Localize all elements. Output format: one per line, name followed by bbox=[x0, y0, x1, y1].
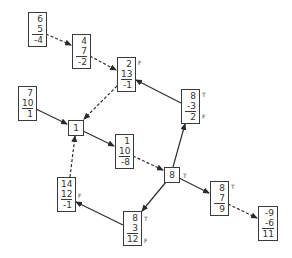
node-tag-true: T bbox=[144, 215, 148, 222]
node-14-12-neg1: 14 12 -1 bbox=[57, 177, 76, 212]
node-tag-true: T bbox=[202, 91, 206, 98]
node-value-bottom: -1 bbox=[61, 200, 72, 210]
node-2-13-neg1: 2 13 -1 bbox=[117, 57, 136, 92]
node-value-bottom: 9 bbox=[214, 204, 225, 214]
node-value-top: 8 bbox=[214, 183, 225, 193]
node-value-top: 8 bbox=[127, 213, 138, 223]
edge-h-to-k bbox=[142, 182, 166, 211]
node-value-middle: -3 bbox=[185, 101, 196, 112]
node-value-top: 4 bbox=[76, 36, 87, 46]
node-4-7-neg2: 4 7 -2 bbox=[72, 34, 91, 69]
node-value-middle: 3 bbox=[127, 223, 138, 234]
node-value-middle: 7 bbox=[214, 193, 225, 204]
node-value-bottom: -2 bbox=[76, 57, 87, 67]
node-value-top: 14 bbox=[61, 179, 72, 189]
edge-c-to-e bbox=[84, 86, 117, 119]
node-value-top: 8 bbox=[185, 91, 196, 101]
edge-b-to-c bbox=[90, 56, 116, 70]
node-7-10-1: 7 10 1 bbox=[18, 86, 37, 121]
node-tag-false: F bbox=[202, 113, 205, 120]
node-tag-false: F bbox=[144, 237, 147, 244]
node-value-middle: -6 bbox=[262, 218, 274, 229]
node-tag-true: T bbox=[231, 183, 235, 190]
edge-f-to-c bbox=[136, 80, 181, 103]
node-value-top: -9 bbox=[262, 208, 274, 218]
edge-k-to-j bbox=[76, 202, 123, 225]
node-value: 1 bbox=[69, 123, 83, 133]
node-value-top: 6 bbox=[32, 14, 43, 24]
node-value-bottom: 1 bbox=[22, 109, 33, 119]
edge-h-to-i bbox=[179, 178, 209, 193]
node-value-middle: 12 bbox=[61, 189, 72, 200]
edge-h-to-f bbox=[173, 124, 185, 167]
node-value-bottom: 12 bbox=[127, 234, 138, 244]
node-value-middle: 10 bbox=[119, 146, 130, 157]
node-neg9-neg6-11: -9 -6 11 bbox=[258, 206, 278, 241]
node-value-top: 1 bbox=[119, 136, 130, 146]
edge-e-to-g bbox=[83, 131, 114, 146]
node-value-bottom: 11 bbox=[262, 229, 274, 239]
node-value-top: 2 bbox=[121, 59, 132, 69]
node-value-middle: 7 bbox=[76, 46, 87, 57]
node-tag-true: T bbox=[183, 172, 187, 179]
node-value-middle: 10 bbox=[22, 98, 33, 109]
node-value: 8 bbox=[165, 170, 179, 180]
node-8-3-12: 8 3 12 bbox=[123, 211, 142, 246]
node-tag-false: F bbox=[78, 192, 81, 199]
node-1-10-neg8: 1 10 -8 bbox=[115, 134, 134, 169]
node-value-top: 7 bbox=[22, 88, 33, 98]
node-value-bottom: -4 bbox=[32, 35, 43, 45]
node-value-bottom: -1 bbox=[121, 80, 132, 90]
node-8-7-9: 8 7 9 bbox=[210, 181, 229, 216]
node-value-middle: 5 bbox=[32, 24, 43, 35]
edge-a-to-b bbox=[46, 34, 71, 45]
node-value-bottom: -8 bbox=[119, 157, 130, 167]
edge-g-to-h bbox=[133, 156, 163, 170]
node-8: 8 bbox=[164, 167, 180, 183]
edge-i-to-l bbox=[228, 204, 257, 218]
node-value-bottom: 2 bbox=[185, 112, 196, 122]
node-1: 1 bbox=[68, 120, 84, 136]
edge-j-to-e bbox=[70, 136, 75, 177]
node-value-middle: 13 bbox=[121, 69, 132, 80]
node-6-5-neg4: 6 5 -4 bbox=[28, 12, 47, 47]
edge-d-to-e bbox=[36, 109, 67, 124]
node-8-neg3-2: 8 -3 2 bbox=[181, 89, 200, 124]
node-tag-false: F bbox=[138, 59, 141, 66]
